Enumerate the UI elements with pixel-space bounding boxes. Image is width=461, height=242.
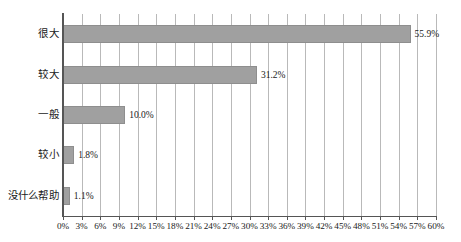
tick-mark-18 xyxy=(175,216,176,220)
tick-label: 18% xyxy=(166,221,183,232)
tick-mark-3 xyxy=(82,216,83,220)
bar-value-label: 1.1% xyxy=(70,191,94,201)
category-label: 一般 xyxy=(0,109,59,120)
y-axis-line xyxy=(62,13,64,217)
tick-label: 33% xyxy=(260,221,277,232)
bar xyxy=(63,187,70,205)
tick-mark-12 xyxy=(138,216,139,220)
tick-label: 21% xyxy=(185,221,202,232)
tick-label: 6% xyxy=(94,221,106,232)
bar-value-label: 31.2% xyxy=(257,70,286,80)
tick-label: 36% xyxy=(278,221,295,232)
bar xyxy=(63,106,125,124)
tick-mark-6 xyxy=(100,216,101,220)
bar-item: 1.1% xyxy=(63,187,436,205)
tick-mark-9 xyxy=(119,216,120,220)
tick-mark-27 xyxy=(231,216,232,220)
tick-mark-39 xyxy=(305,216,306,220)
tick-mark-33 xyxy=(268,216,269,220)
bar-value-label: 10.0% xyxy=(125,110,154,120)
tick-label: 45% xyxy=(334,221,351,232)
tick-mark-30 xyxy=(250,216,251,220)
bar-item: 10.0% xyxy=(63,106,436,124)
bar xyxy=(63,146,74,164)
bar-value-label: 55.9% xyxy=(411,29,440,39)
tick-mark-15 xyxy=(156,216,157,220)
tick-label: 9% xyxy=(113,221,125,232)
category-label: 没什么帮助 xyxy=(0,190,59,201)
category-label: 较小 xyxy=(0,149,59,160)
tick-mark-60 xyxy=(436,216,437,220)
category-label: 较大 xyxy=(0,69,59,80)
tick-mark-51 xyxy=(380,216,381,220)
tick-label: 48% xyxy=(353,221,370,232)
tick-label: 42% xyxy=(316,221,333,232)
tick-label: 3% xyxy=(76,221,88,232)
bar-value-label: 1.8% xyxy=(74,150,98,160)
bar-item: 55.9% xyxy=(63,25,436,43)
tick-label: 54% xyxy=(390,221,407,232)
tick-label: 39% xyxy=(297,221,314,232)
tick-mark-36 xyxy=(287,216,288,220)
tick-mark-57 xyxy=(417,216,418,220)
bar xyxy=(63,66,257,84)
bar-chart: 很大较大一般较小没什么帮助 55.9%31.2%10.0%1.8%1.1% 0%… xyxy=(0,0,461,242)
tick-mark-0 xyxy=(63,216,64,220)
tick-label: 60% xyxy=(428,221,445,232)
tick-label: 27% xyxy=(222,221,239,232)
tick-label: 30% xyxy=(241,221,258,232)
tick-label: 12% xyxy=(129,221,146,232)
category-axis-labels: 很大较大一般较小没什么帮助 xyxy=(0,0,61,216)
tick-mark-54 xyxy=(399,216,400,220)
x-axis-ticks: 0%3%6%9%12%15%18%21%24%27%30%33%36%39%42… xyxy=(63,216,436,242)
gridline-60 xyxy=(436,14,437,216)
tick-mark-45 xyxy=(343,216,344,220)
tick-mark-24 xyxy=(212,216,213,220)
bar-series: 55.9%31.2%10.0%1.8%1.1% xyxy=(63,14,436,216)
tick-label: 24% xyxy=(204,221,221,232)
bar xyxy=(63,25,411,43)
tick-mark-42 xyxy=(324,216,325,220)
tick-label: 15% xyxy=(148,221,165,232)
tick-mark-48 xyxy=(361,216,362,220)
category-label: 很大 xyxy=(0,28,59,39)
bar-item: 31.2% xyxy=(63,66,436,84)
tick-label: 0% xyxy=(57,221,69,232)
bar-item: 1.8% xyxy=(63,146,436,164)
tick-label: 51% xyxy=(372,221,389,232)
tick-mark-21 xyxy=(194,216,195,220)
plot-area: 55.9%31.2%10.0%1.8%1.1% xyxy=(63,14,436,216)
tick-label: 57% xyxy=(409,221,426,232)
